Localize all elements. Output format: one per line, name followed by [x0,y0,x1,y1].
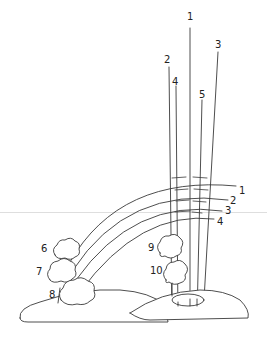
vertical-label-5: 5 [199,90,205,100]
arc-label-3: 3 [225,206,231,216]
vertical-label-1: 1 [187,12,193,22]
tree-label-9: 9 [148,243,154,253]
tree-label-7: 7 [36,267,42,277]
arc-band-2 [73,198,228,270]
vertical-label-3: 3 [215,40,221,50]
vertical-label-2: 2 [164,55,170,65]
vertical-label-4: 4 [172,77,178,87]
tree-label-8: 8 [49,290,55,300]
ground-hole [172,294,204,306]
tree-10-icon [164,260,188,284]
arc-label-4: 4 [217,217,223,227]
tree-label-6: 6 [41,244,47,254]
tree-label-10: 10 [150,266,163,276]
rainbow-weave-drawing [0,0,267,342]
tree-6-icon [53,238,79,259]
arc-label-1: 1 [239,186,245,196]
tree-9-icon [158,234,183,258]
tree-7-icon [48,259,77,283]
arc-band-4 [80,218,214,292]
